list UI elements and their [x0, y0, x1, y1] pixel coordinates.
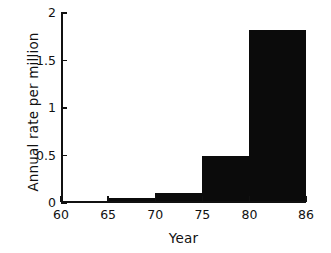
- y-tick-label: 1.5: [16, 55, 56, 68]
- y-tick-mark: [61, 202, 67, 203]
- x-tick-label: 80: [229, 209, 269, 222]
- x-tick-label: 86: [286, 209, 326, 222]
- y-tick-label: 0: [16, 197, 56, 210]
- y-tick-mark: [61, 60, 67, 61]
- x-tick-mark: [107, 196, 108, 202]
- x-axis-title: Year: [61, 230, 306, 246]
- y-tick-label: 0.5: [16, 150, 56, 163]
- y-tick-mark: [61, 155, 67, 156]
- plot-area: 00.511.52 606570758086: [61, 13, 306, 203]
- y-tick-mark: [61, 107, 67, 108]
- x-tick-label: 70: [135, 209, 175, 222]
- x-tick-label: 75: [182, 209, 222, 222]
- x-tick-mark: [305, 196, 306, 202]
- x-axis-line: [61, 201, 306, 203]
- x-tick-mark: [249, 196, 250, 202]
- y-tick-label: 2: [16, 7, 56, 20]
- x-tick-mark: [60, 196, 61, 202]
- x-tick-mark: [202, 196, 203, 202]
- x-tick-label: 65: [88, 209, 128, 222]
- x-tick-label: 60: [41, 209, 81, 222]
- y-tick-mark: [61, 12, 67, 13]
- bar: [202, 156, 249, 203]
- x-tick-mark: [155, 196, 156, 202]
- bars-layer: [61, 13, 306, 203]
- bar: [249, 30, 306, 203]
- y-tick-label: 1: [16, 102, 56, 115]
- annual-rate-per-million-histogram: Annual rate per million 00.511.52 606570…: [0, 0, 331, 253]
